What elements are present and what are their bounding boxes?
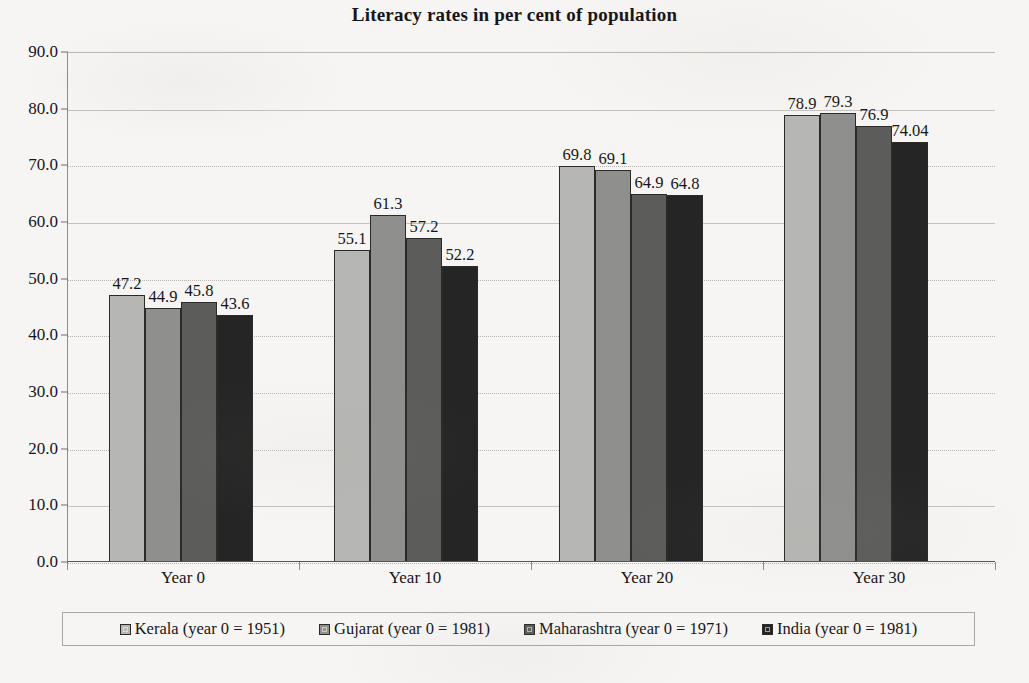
literacy-rates-bar-chart: Literacy rates in per cent of population… [0, 0, 1029, 683]
bar-value-label: 44.9 [149, 287, 178, 307]
bar-slot: 44.9 [145, 53, 181, 562]
x-tick-label-year-30: Year 30 [853, 568, 906, 588]
plot-area: 47.244.945.843.655.161.357.252.269.869.1… [67, 52, 995, 562]
bar-value-label: 47.2 [113, 274, 142, 294]
bar-value-label: 69.8 [563, 145, 592, 165]
y-tick-mark-90.0 [61, 52, 68, 53]
x-tick-mark-1 [299, 562, 300, 570]
bar-slot: 69.8 [559, 53, 595, 562]
y-tick-mark-50.0 [61, 278, 68, 279]
bar-slot: 64.9 [631, 53, 667, 562]
bar-slot: 47.2 [109, 53, 145, 562]
bar-year-0-series-2[interactable]: 45.8 [181, 302, 217, 562]
bar-value-label: 57.2 [410, 217, 439, 237]
legend-swatch-icon [524, 624, 535, 635]
y-tick-label-40.0: 40.0 [0, 325, 58, 345]
legend-label: Kerala (year 0 = 1951) [135, 619, 285, 639]
bar-slot: 43.6 [217, 53, 253, 562]
bar-slot: 74.04 [892, 53, 928, 562]
bar-year-0-series-3[interactable]: 43.6 [217, 315, 253, 562]
legend-swatch-icon [762, 624, 773, 635]
bar-slot: 61.3 [370, 53, 406, 562]
y-tick-mark-20.0 [61, 448, 68, 449]
y-tick-label-20.0: 20.0 [0, 439, 58, 459]
x-tick-label-year-10: Year 10 [389, 568, 442, 588]
x-tick-label-year-20: Year 20 [621, 568, 674, 588]
y-tick-label-0.0: 0.0 [0, 552, 58, 572]
bar-slot: 52.2 [442, 53, 478, 562]
bar-slot: 69.1 [595, 53, 631, 562]
bar-slot: 55.1 [334, 53, 370, 562]
bar-year-20-series-3[interactable]: 64.8 [667, 195, 703, 562]
bar-value-label: 55.1 [338, 229, 367, 249]
y-tick-label-80.0: 80.0 [0, 99, 58, 119]
legend-label: India (year 0 = 1981) [777, 619, 917, 639]
x-tick-mark-4 [995, 562, 996, 570]
y-tick-mark-70.0 [61, 165, 68, 166]
bar-value-label: 64.9 [635, 173, 664, 193]
legend-swatch-icon [120, 624, 131, 635]
bar-value-label: 78.9 [788, 94, 817, 114]
bar-year-20-series-2[interactable]: 64.9 [631, 194, 667, 562]
y-tick-mark-40.0 [61, 335, 68, 336]
legend-entry-kerala[interactable]: Kerala (year 0 = 1951) [120, 619, 285, 639]
bar-slot: 45.8 [181, 53, 217, 562]
y-tick-mark-60.0 [61, 222, 68, 223]
y-tick-label-10.0: 10.0 [0, 495, 58, 515]
bar-year-30-series-0[interactable]: 78.9 [784, 115, 820, 562]
x-tick-label-year-0: Year 0 [161, 568, 205, 588]
bar-slot: 78.9 [784, 53, 820, 562]
bar-year-10-series-2[interactable]: 57.2 [406, 238, 442, 562]
bar-year-20-series-1[interactable]: 69.1 [595, 170, 631, 562]
y-tick-label-90.0: 90.0 [0, 42, 58, 62]
y-tick-label-30.0: 30.0 [0, 382, 58, 402]
bar-value-label: 79.3 [824, 92, 853, 112]
y-tick-mark-30.0 [61, 392, 68, 393]
bar-year-10-series-0[interactable]: 55.1 [334, 250, 370, 562]
x-tick-mark-2 [531, 562, 532, 570]
bar-year-30-series-3[interactable]: 74.04 [892, 142, 928, 562]
bar-year-0-series-1[interactable]: 44.9 [145, 308, 181, 562]
bar-group-year-20: 69.869.164.964.8 [559, 53, 703, 562]
bar-slot: 57.2 [406, 53, 442, 562]
legend-swatch-icon [319, 624, 330, 635]
bar-value-label: 45.8 [185, 281, 214, 301]
y-tick-mark-80.0 [61, 108, 68, 109]
bar-year-20-series-0[interactable]: 69.8 [559, 166, 595, 562]
y-tick-label-70.0: 70.0 [0, 155, 58, 175]
legend-label: Maharashtra (year 0 = 1971) [539, 619, 728, 639]
bar-year-10-series-1[interactable]: 61.3 [370, 215, 406, 562]
bar-slot: 76.9 [856, 53, 892, 562]
bar-value-label: 74.04 [891, 121, 928, 141]
bar-group-year-0: 47.244.945.843.6 [109, 53, 253, 562]
bar-value-label: 52.2 [446, 245, 475, 265]
bar-group-year-30: 78.979.376.974.04 [784, 53, 928, 562]
x-tick-mark-3 [763, 562, 764, 570]
legend-entry-gujarat[interactable]: Gujarat (year 0 = 1981) [319, 619, 490, 639]
bar-value-label: 43.6 [221, 294, 250, 314]
legend-label: Gujarat (year 0 = 1981) [334, 619, 490, 639]
legend-entry-india[interactable]: India (year 0 = 1981) [762, 619, 917, 639]
legend-entry-maharashtra[interactable]: Maharashtra (year 0 = 1971) [524, 619, 728, 639]
bar-year-30-series-2[interactable]: 76.9 [856, 126, 892, 562]
y-tick-mark-10.0 [61, 505, 68, 506]
y-tick-label-50.0: 50.0 [0, 269, 58, 289]
bar-slot: 64.8 [667, 53, 703, 562]
bar-year-0-series-0[interactable]: 47.2 [109, 295, 145, 562]
bar-year-10-series-3[interactable]: 52.2 [442, 266, 478, 562]
bar-group-year-10: 55.161.357.252.2 [334, 53, 478, 562]
bar-value-label: 76.9 [860, 105, 889, 125]
y-tick-label-60.0: 60.0 [0, 212, 58, 232]
bar-slot: 79.3 [820, 53, 856, 562]
bar-value-label: 69.1 [599, 149, 628, 169]
bar-year-30-series-1[interactable]: 79.3 [820, 113, 856, 562]
chart-title: Literacy rates in per cent of population [0, 4, 1029, 26]
x-tick-mark-0 [67, 562, 68, 570]
chart-legend: Kerala (year 0 = 1951)Gujarat (year 0 = … [62, 612, 975, 646]
bar-value-label: 61.3 [374, 194, 403, 214]
bar-value-label: 64.8 [671, 174, 700, 194]
y-tick-mark-0.0 [61, 562, 68, 563]
